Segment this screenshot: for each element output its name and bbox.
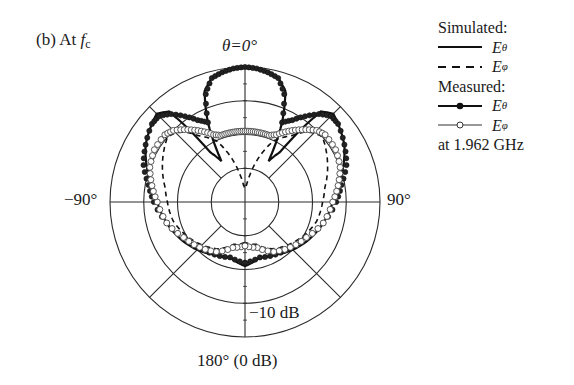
legend-frequency-note: at 1.962 GHz <box>438 135 524 155</box>
legend-simulated-header: Simulated: <box>438 18 524 38</box>
minus-90-label: −90° <box>64 190 97 210</box>
legend-measured-header: Measured: <box>438 77 524 97</box>
dashed-line-icon <box>438 62 484 72</box>
legend-meas-etheta: Eθ <box>438 96 524 116</box>
legend: Simulated: Eθ Eφ Measured: Eθ Eφ at 1.96… <box>438 18 524 155</box>
legend-sim-ephi: Eφ <box>438 57 524 77</box>
filled-circle-line-icon <box>438 101 484 111</box>
legend-meas-ephi: Eφ <box>438 116 524 136</box>
scale-label: −10 dB <box>249 303 300 323</box>
legend-sim-etheta: Eθ <box>438 38 524 58</box>
open-circle-line-icon <box>438 120 484 130</box>
polar-grid <box>110 67 380 337</box>
plus-90-label: 90° <box>387 190 411 210</box>
solid-line-icon <box>438 42 484 52</box>
bottom-angle-label: 180° (0 dB) <box>197 351 277 371</box>
panel-label: (b) At fc <box>36 30 90 52</box>
theta-zero-label: θ=0° <box>222 36 257 56</box>
